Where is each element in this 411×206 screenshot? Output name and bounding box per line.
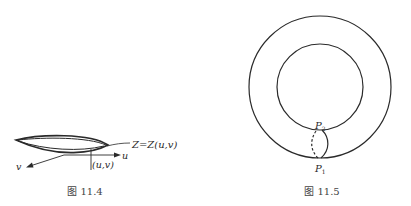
v-axis-arrowhead (26, 163, 34, 168)
annulus-diagram: P2 P1 图 11.5 (200, 0, 411, 206)
dashed-arc (312, 131, 318, 158)
v-axis-label: v (16, 161, 22, 172)
p1-label: P1 (314, 163, 326, 175)
point-label: (u,v) (92, 159, 114, 170)
p2-label: P2 (314, 120, 326, 132)
figure-11-4: Z=Z(u,v) (u,v) u v 图 11.4 (0, 0, 200, 206)
surface-diagram: Z=Z(u,v) (u,v) u v 图 11.4 (0, 0, 200, 206)
figure-caption: 图 11.5 (304, 186, 339, 197)
u-axis-label: u (122, 150, 128, 161)
figure-11-5: P2 P1 图 11.5 (200, 0, 411, 206)
figure-caption: 图 11.4 (67, 186, 102, 197)
solid-arc (321, 130, 328, 158)
surface-equation-label: Z=Z(u,v) (131, 139, 177, 150)
u-axis-arrowhead (114, 153, 121, 158)
v-axis-line (30, 155, 64, 166)
inner-circle (277, 44, 363, 130)
surface-label-leader (107, 143, 130, 146)
outer-circle (249, 16, 391, 158)
